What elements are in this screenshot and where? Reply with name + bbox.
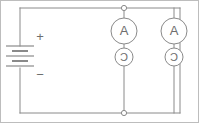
circuit-canvas: + − A Ɔ A Ɔ <box>0 0 199 123</box>
circuit-wires <box>20 8 180 113</box>
battery-minus-label: − <box>36 67 44 82</box>
ammeter-label: A <box>170 23 179 38</box>
junction-node-top <box>121 5 126 10</box>
junction-node-bottom <box>121 110 126 115</box>
lamp-label: Ɔ <box>170 51 178 63</box>
battery-symbol <box>6 46 34 66</box>
right-branch-lamp: Ɔ <box>165 48 183 66</box>
lamp-label: Ɔ <box>120 51 128 63</box>
circuit-diagram-screenshot: + − A Ɔ A Ɔ <box>0 0 199 123</box>
left-branch-lamp: Ɔ <box>115 48 133 66</box>
ammeter-label: A <box>120 23 129 38</box>
right-branch-ammeter: A <box>161 18 187 44</box>
battery-plus-label: + <box>36 29 44 44</box>
left-branch-ammeter: A <box>111 18 137 44</box>
